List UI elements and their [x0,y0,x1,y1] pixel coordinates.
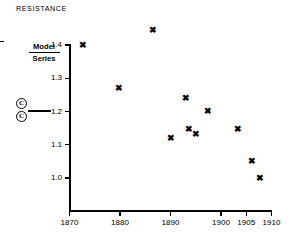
data-point-marker [182,95,189,102]
data-point-marker [167,135,174,142]
y-axis-line [69,44,71,212]
y-tick-label-text: 1.0 [18,174,62,182]
y-tick-label: 1.1 [18,141,62,149]
left-margin-tick [0,41,4,42]
data-point-marker [204,108,211,115]
y-tick-label-text: 1.2 [18,108,62,116]
data-point-marker [256,175,263,182]
data-point-marker [79,42,86,49]
data-point-marker [248,158,255,165]
x-tick [246,212,247,216]
data-point-marker [149,27,156,34]
x-tick [119,212,120,216]
x-tick-label: 1880 [100,218,140,227]
y-tick-label: 1.2 [18,108,62,116]
x-tick-label: 1890 [151,218,191,227]
chart-figure: RESISTANCE Model Series C C 1.01.11.21.3… [0,0,296,237]
y-tick-label-text: 1.1 [18,141,62,149]
data-point-marker [185,126,192,133]
x-tick [69,212,70,216]
y-tick-label-text: 1.4 [18,41,62,49]
data-point-marker [192,131,199,138]
y-tick-label-text: 1.3 [18,74,62,82]
data-point-marker [234,126,241,133]
y-tick-label: 1.0 [18,174,62,182]
y-tick [65,177,69,178]
x-tick [271,212,272,216]
x-tick [220,212,221,216]
y-tick [65,111,69,112]
y-tick [65,78,69,79]
annotation-denominator: Series [22,54,66,64]
x-tick-label: 1870 [50,218,90,227]
data-point-marker [115,85,122,92]
x-tick-label: 1910 [252,218,292,227]
y-tick [65,144,69,145]
chart-title: RESISTANCE [16,4,67,13]
y-tick [65,44,69,45]
y-tick-label: 1.3 [18,74,62,82]
y-tick-label: 1.4 [18,41,62,49]
x-tick [170,212,171,216]
